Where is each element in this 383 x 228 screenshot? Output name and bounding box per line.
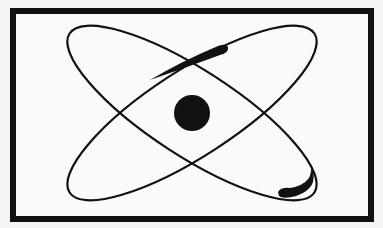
- nucleus-icon: [174, 95, 210, 131]
- atom-figure: Atom symbol: [0, 0, 383, 228]
- atom-illustration: [0, 0, 383, 228]
